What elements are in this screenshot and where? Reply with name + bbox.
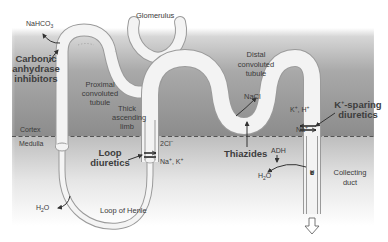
collecting-duct-label: Collecting duct	[330, 168, 370, 188]
distal-tubule-label: Distal convoluted tubule	[232, 50, 280, 79]
proximal-tubule-label: Proximal convoluted tubule	[76, 80, 124, 107]
glomerulus-label: Glomerulus	[136, 12, 174, 20]
loop-diuretics-label: Loop diuretics	[90, 148, 130, 168]
nephron-diagram: NaHCO3 Carbonic anhydrase inhibitors Glo…	[0, 0, 388, 242]
carbonic-anhydrase-inhibitors-label: Carbonic anhydrase inhibitors	[10, 54, 62, 84]
thick-ascending-limb-label: Thick ascending limb	[112, 104, 142, 131]
loop-of-henle-label: Loop of Henle	[100, 207, 147, 215]
nephron-graphic	[0, 0, 388, 242]
k-sparing-diuretics-label: K+-sparing diuretics	[334, 100, 382, 120]
two-cl-label: 2Cl−	[160, 140, 173, 148]
thiazides-label: Thiazides	[224, 149, 267, 159]
h2o-right-label: H2O	[258, 172, 271, 180]
na-label: Na+	[296, 126, 308, 134]
na-k-label: Na+, K+	[160, 158, 183, 166]
adh-label: ADH	[271, 147, 286, 155]
k-h-label: K+, H+	[290, 106, 309, 114]
nahco3-label: NaHCO3	[26, 20, 53, 28]
nacl-label: NaCl	[244, 93, 261, 101]
cortex-label: Cortex	[20, 126, 41, 134]
medulla-label: Medulla	[19, 140, 44, 148]
h2o-left-label: H2O	[36, 204, 49, 212]
